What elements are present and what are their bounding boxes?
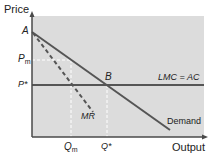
qm-label: Qm bbox=[64, 142, 78, 153]
demand-curve-label: Demand bbox=[167, 117, 201, 126]
point-b-label: B bbox=[105, 72, 112, 82]
pm-label-sub: m bbox=[25, 58, 31, 65]
pm-label-main: P bbox=[18, 53, 25, 64]
pm-label: Pm bbox=[18, 54, 31, 65]
x-axis-label: Output bbox=[172, 142, 205, 153]
qm-label-main: Q bbox=[64, 141, 72, 152]
x-axis-arrow-icon bbox=[202, 135, 208, 140]
y-axis-arrow-icon bbox=[30, 11, 35, 17]
qstar-label: Q* bbox=[101, 142, 112, 151]
point-a-label: A bbox=[22, 26, 29, 36]
pstar-label: P* bbox=[18, 80, 28, 89]
y-axis-label: Price bbox=[4, 4, 29, 15]
qm-label-sub: m bbox=[72, 146, 78, 153]
mr-curve-label: MR bbox=[81, 112, 95, 121]
lmc-ac-label: LMC = AC bbox=[158, 73, 199, 82]
